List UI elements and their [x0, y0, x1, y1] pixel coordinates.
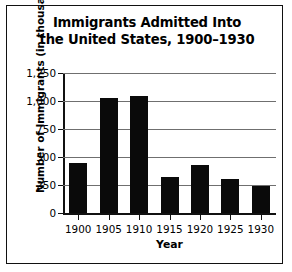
- bar: [69, 163, 87, 213]
- gridline: [63, 157, 276, 158]
- chart-title: Immigrants Admitted Into the United Stat…: [27, 14, 267, 48]
- x-tick-mark: [230, 214, 231, 220]
- x-tick-mark: [78, 214, 79, 220]
- x-tick-mark: [139, 214, 140, 220]
- x-tick-label: 1925: [217, 223, 243, 235]
- bar: [252, 186, 270, 213]
- y-tick-label: 0: [49, 207, 56, 219]
- x-tick-mark: [200, 214, 201, 220]
- x-tick-label: 1910: [126, 223, 152, 235]
- bar: [130, 96, 148, 213]
- chart-title-line-2: the United States, 1900–1930: [27, 31, 267, 48]
- x-tick-label: 1920: [187, 223, 213, 235]
- y-axis-label: Number of Immigrants (in thousands): [34, 23, 46, 193]
- bar: [161, 177, 179, 213]
- x-tick-label: 1930: [248, 223, 274, 235]
- gridline: [63, 101, 276, 102]
- x-tick-mark: [261, 214, 262, 220]
- y-tick-mark: [58, 73, 63, 74]
- y-tick-mark: [58, 157, 63, 158]
- y-tick-label: 250: [36, 179, 56, 191]
- y-tick-label: 500: [36, 151, 56, 163]
- y-tick-label: 750: [36, 123, 56, 135]
- bar: [221, 179, 239, 213]
- x-tick-label: 1905: [95, 223, 121, 235]
- gridline: [63, 129, 276, 130]
- gridline: [63, 73, 276, 74]
- y-tick-label: 1,250: [26, 67, 56, 79]
- plot-area: 02505007501,0001,250 1900190519101915192…: [63, 73, 276, 213]
- chart-figure: Immigrants Admitted Into the United Stat…: [6, 5, 283, 264]
- y-tick-mark: [58, 101, 63, 102]
- x-tick-label: 1915: [156, 223, 182, 235]
- x-tick-mark: [170, 214, 171, 220]
- y-tick-mark: [58, 129, 63, 130]
- y-tick-mark: [58, 185, 63, 186]
- y-tick-mark: [58, 213, 63, 214]
- chart-title-line-1: Immigrants Admitted Into: [27, 14, 267, 31]
- x-tick-mark: [109, 214, 110, 220]
- x-axis-label: Year: [63, 238, 276, 251]
- x-tick-label: 1900: [65, 223, 91, 235]
- y-tick-label: 1,000: [26, 95, 56, 107]
- bar: [100, 98, 118, 213]
- bar: [191, 165, 209, 213]
- y-axis-line: [63, 73, 65, 214]
